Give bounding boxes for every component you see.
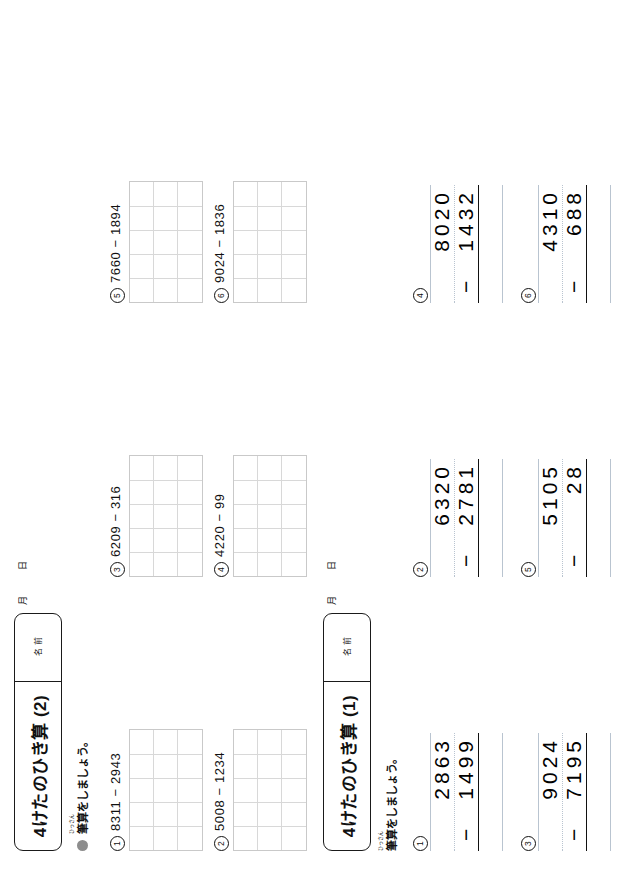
answer-cell[interactable] [282,826,306,850]
answer-cell[interactable] [178,182,202,206]
answer-cell[interactable] [178,754,202,778]
answer-cell[interactable] [130,826,154,850]
vertical-calculation[interactable]: 4310 − 688 [538,185,612,303]
answer-cell[interactable] [130,182,154,206]
answer-cell[interactable] [178,206,202,230]
answer-grid[interactable] [233,729,307,851]
answer-cell[interactable] [154,826,178,850]
answer-cell[interactable] [258,206,282,230]
answer-cell[interactable] [234,754,258,778]
answer-cell[interactable] [154,254,178,278]
answer-cell[interactable] [282,754,306,778]
answer-cell[interactable] [258,456,282,480]
answer-cell[interactable] [154,802,178,826]
vertical-calculation[interactable]: 8020 − 1432 [430,185,504,303]
answer-cell[interactable] [154,480,178,504]
answer-cell[interactable] [282,480,306,504]
answer-cell[interactable] [130,552,154,576]
answer-cell[interactable] [234,480,258,504]
answer-cell[interactable] [234,528,258,552]
answer-cell[interactable] [282,182,306,206]
answer-cell[interactable] [178,730,202,754]
answer-cell[interactable] [282,230,306,254]
answer-cell[interactable] [130,778,154,802]
answer-cell[interactable] [258,182,282,206]
answer-cell[interactable] [282,278,306,302]
answer-cell[interactable] [258,754,282,778]
answer-cell[interactable] [258,826,282,850]
answer-grid[interactable] [233,455,307,577]
answer-cell[interactable] [258,778,282,802]
answer-cell[interactable] [282,504,306,528]
answer-cell[interactable] [130,230,154,254]
answer-cell[interactable] [234,778,258,802]
answer-cell[interactable] [130,480,154,504]
answer-cell[interactable] [234,504,258,528]
answer-cell[interactable] [130,206,154,230]
answer-cell[interactable] [282,456,306,480]
answer-cell[interactable] [234,254,258,278]
answer-cell[interactable] [154,754,178,778]
answer-cell[interactable] [178,230,202,254]
answer-cell[interactable] [178,480,202,504]
answer-grid[interactable] [129,181,203,303]
answer-cell[interactable] [234,456,258,480]
answer-grid[interactable] [233,181,307,303]
answer-cell[interactable] [282,206,306,230]
vertical-calculation[interactable]: 2863 − 1499 [430,733,504,851]
vertical-calculation[interactable]: 9024 − 7195 [538,733,612,851]
answer-cell[interactable] [258,230,282,254]
answer-cell[interactable] [282,528,306,552]
answer-cell[interactable] [130,504,154,528]
answer-cell[interactable] [258,802,282,826]
answer-cell[interactable] [130,278,154,302]
answer-cell[interactable] [154,182,178,206]
vertical-calculation[interactable]: 5105 − 28 [538,459,612,577]
answer-cell[interactable] [178,528,202,552]
answer-cell[interactable] [130,528,154,552]
answer-cell[interactable] [234,206,258,230]
answer-grid[interactable] [129,455,203,577]
name-field[interactable]: 名 前 [324,614,370,682]
answer-cell[interactable] [154,778,178,802]
answer-cell[interactable] [282,778,306,802]
answer-cell[interactable] [178,254,202,278]
answer-cell[interactable] [282,254,306,278]
answer-cell[interactable] [234,182,258,206]
answer-cell[interactable] [178,504,202,528]
answer-cell[interactable] [178,802,202,826]
answer-cell[interactable] [154,504,178,528]
answer-cell[interactable] [282,802,306,826]
answer-cell[interactable] [234,826,258,850]
answer-cell[interactable] [258,480,282,504]
answer-cell[interactable] [178,778,202,802]
answer-cell[interactable] [154,206,178,230]
answer-cell[interactable] [258,504,282,528]
answer-cell[interactable] [234,230,258,254]
answer-cell[interactable] [234,730,258,754]
answer-cell[interactable] [130,730,154,754]
answer-cell[interactable] [234,552,258,576]
name-field[interactable]: 名 前 [15,614,61,682]
answer-cell[interactable] [258,552,282,576]
answer-grid[interactable] [129,729,203,851]
answer-cell[interactable] [178,552,202,576]
vertical-calculation[interactable]: 6320 − 2781 [430,459,504,577]
answer-cell[interactable] [154,278,178,302]
answer-cell[interactable] [258,528,282,552]
answer-cell[interactable] [234,278,258,302]
answer-cell[interactable] [130,456,154,480]
answer-cell[interactable] [154,730,178,754]
answer-cell[interactable] [154,552,178,576]
answer-cell[interactable] [130,802,154,826]
answer-cell[interactable] [154,230,178,254]
answer-cell[interactable] [154,528,178,552]
answer-cell[interactable] [178,826,202,850]
answer-cell[interactable] [154,456,178,480]
answer-cell[interactable] [130,254,154,278]
answer-cell[interactable] [282,552,306,576]
answer-cell[interactable] [234,802,258,826]
answer-cell[interactable] [258,254,282,278]
answer-cell[interactable] [178,456,202,480]
answer-cell[interactable] [178,278,202,302]
